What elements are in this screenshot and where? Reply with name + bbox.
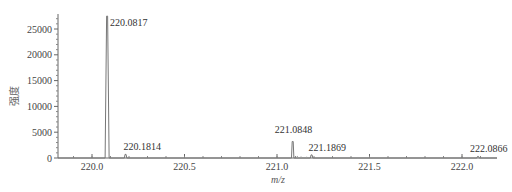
x-tick-label: 220.5 [173,161,196,172]
x-axis-label: m/z [271,174,285,185]
y-tick-label: 20000 [27,49,52,60]
x-tick-label: 222.0 [451,161,474,172]
peak-label: 221.0848 [275,124,313,135]
peak-labels: 220.0817220.1814221.0848221.1869222.0866 [110,17,507,154]
x-tick-label: 221.0 [266,161,289,172]
mass-spectrum-chart: 0500010000150002000025000220.0220.5221.0… [0,0,512,192]
y-tick-label: 10000 [27,101,52,112]
y-tick-label: 15000 [27,75,52,86]
y-axis-label: 强度 [8,86,20,106]
x-tick-label: 220.0 [81,161,104,172]
y-tick-label: 5000 [32,127,52,138]
y-tick-label: 0 [47,153,52,164]
x-tick-label: 221.5 [358,161,381,172]
peak-label: 222.0866 [470,143,508,154]
axes: 0500010000150002000025000220.0220.5221.0… [27,14,497,172]
y-tick-label: 25000 [27,24,52,35]
peak-label: 220.0817 [110,17,148,28]
peak-label: 220.1814 [124,141,161,152]
spectrum-trace [58,16,497,158]
peak-label: 221.1869 [309,142,347,153]
